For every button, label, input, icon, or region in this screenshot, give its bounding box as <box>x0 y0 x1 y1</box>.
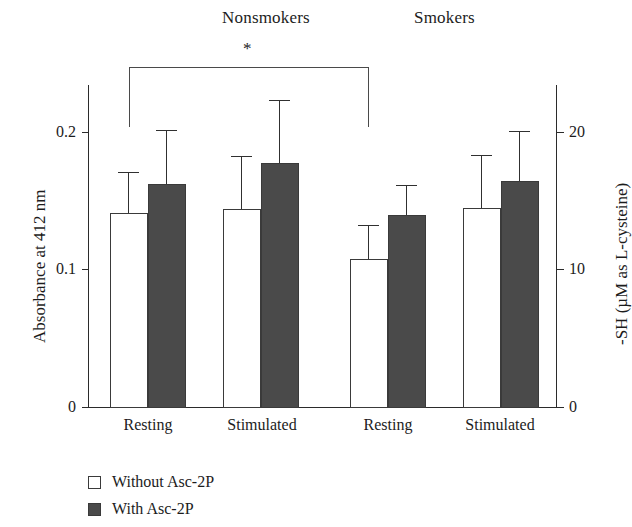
y-axis-right-title: -SH (µM as L-cysteine) <box>612 183 632 345</box>
y-tick-left-0.1 <box>82 269 89 270</box>
significance-bracket <box>129 67 369 127</box>
legend-label-without-asc2p: Without Asc-2P <box>112 473 214 491</box>
group-header-smokers: Smokers <box>414 8 475 28</box>
errorbar-cap-filled-nonsmokers-resting <box>156 130 177 131</box>
figure-bar-chart: Nonsmokers Smokers * 0 0.1 0.2 Absorbanc… <box>0 0 632 527</box>
errorbar-stem-open-nonsmokers-stimulated <box>241 156 242 209</box>
y-tick-label-left-0: 0 <box>20 398 76 416</box>
y-tick-left-0.2 <box>82 132 89 133</box>
y-axis-right-line <box>556 85 557 408</box>
errorbar-cap-filled-smokers-stimulated <box>509 131 530 132</box>
legend-swatch-open-square <box>88 476 101 489</box>
y-axis-left-title: Absorbance at 412 nm <box>30 190 50 343</box>
y-tick-label-left-0.2: 0.2 <box>20 123 76 141</box>
legend-swatch-filled-square <box>88 503 101 516</box>
x-category-label-1: Stimulated <box>206 416 318 434</box>
errorbar-stem-open-nonsmokers-resting <box>128 172 129 213</box>
y-tick-right-10 <box>557 269 564 270</box>
x-category-label-3: Stimulated <box>444 416 556 434</box>
y-tick-label-right-10: 10 <box>569 260 609 278</box>
errorbar-stem-filled-smokers-resting <box>406 185 407 215</box>
bar-filled-smokers-resting <box>388 215 426 408</box>
group-header-nonsmokers: Nonsmokers <box>222 8 310 28</box>
errorbar-cap-filled-smokers-resting <box>396 185 417 186</box>
legend-item-with-asc2p: With Asc-2P <box>88 500 194 518</box>
y-axis-left-line <box>88 85 89 408</box>
errorbar-cap-open-smokers-resting <box>358 225 379 226</box>
errorbar-stem-filled-smokers-stimulated <box>519 131 520 181</box>
bar-filled-smokers-stimulated <box>501 181 539 408</box>
bar-open-nonsmokers-stimulated <box>223 209 261 408</box>
bar-open-smokers-resting <box>350 259 388 408</box>
errorbar-cap-open-nonsmokers-resting <box>118 172 139 173</box>
x-category-label-2: Resting <box>338 416 438 434</box>
y-tick-label-right-0: 0 <box>569 398 609 416</box>
legend-label-with-asc2p: With Asc-2P <box>112 500 194 518</box>
errorbar-cap-open-nonsmokers-stimulated <box>231 156 252 157</box>
errorbar-cap-open-smokers-stimulated <box>471 155 492 156</box>
errorbar-cap-filled-nonsmokers-stimulated <box>269 100 290 101</box>
errorbar-stem-open-smokers-stimulated <box>481 155 482 208</box>
errorbar-stem-filled-nonsmokers-resting <box>166 130 167 184</box>
legend-item-without-asc2p: Without Asc-2P <box>88 473 214 491</box>
bar-filled-nonsmokers-stimulated <box>261 163 299 408</box>
bar-filled-nonsmokers-resting <box>148 184 186 408</box>
y-tick-right-20 <box>557 132 564 133</box>
bar-open-nonsmokers-resting <box>110 213 148 408</box>
y-tick-right-0 <box>557 407 564 408</box>
y-tick-label-right-20: 20 <box>569 123 609 141</box>
significance-star: * <box>243 40 252 57</box>
errorbar-stem-filled-nonsmokers-stimulated <box>279 100 280 163</box>
bar-open-smokers-stimulated <box>463 208 501 408</box>
x-category-label-0: Resting <box>98 416 198 434</box>
errorbar-stem-open-smokers-resting <box>368 225 369 259</box>
